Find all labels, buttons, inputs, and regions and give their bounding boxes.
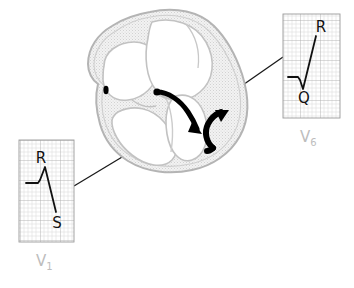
v6-q-wave-letter: Q	[298, 89, 310, 107]
v6-lead-subscript: 6	[310, 137, 316, 148]
v1-grid	[19, 140, 74, 242]
vessel-cross-section-dot	[103, 86, 108, 94]
figure-canvas: R S V1 R Q V6	[0, 0, 354, 288]
v1-r-wave-letter: R	[36, 149, 46, 167]
v1-s-wave-letter: S	[52, 214, 62, 232]
v6-r-wave-letter: R	[316, 18, 326, 36]
v1-lead-subscript: 1	[46, 261, 52, 272]
v6-grid	[283, 14, 340, 118]
